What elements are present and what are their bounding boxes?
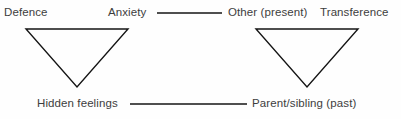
label-defence: Defence <box>4 5 48 19</box>
right-triangle-shape <box>256 29 358 87</box>
label-parent-sibling-past: Parent/sibling (past) <box>252 96 356 110</box>
label-hidden-feelings: Hidden feelings <box>37 96 118 110</box>
diagram-canvas: Defence Anxiety Other (present) Transfer… <box>0 0 401 119</box>
label-transference: Transference <box>320 5 389 19</box>
label-anxiety: Anxiety <box>108 5 146 19</box>
label-other-present: Other (present) <box>228 5 307 19</box>
left-triangle-shape <box>26 29 128 87</box>
